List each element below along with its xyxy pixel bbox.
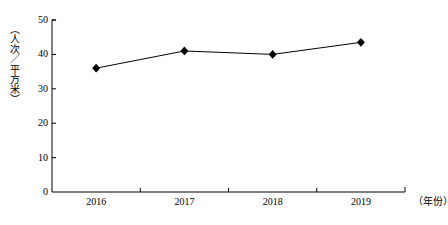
line-chart: （人次／平方米） 01020304050 2016201720182019 （年… bbox=[0, 0, 448, 225]
x-tick-label: 2019 bbox=[351, 197, 371, 207]
x-tick-label: 2017 bbox=[174, 197, 194, 207]
x-axis-title: （年份） bbox=[413, 196, 448, 207]
x-axis-tick-labels: 2016201720182019 bbox=[0, 0, 448, 225]
x-tick-label: 2018 bbox=[263, 197, 283, 207]
x-tick-label: 2016 bbox=[86, 197, 106, 207]
